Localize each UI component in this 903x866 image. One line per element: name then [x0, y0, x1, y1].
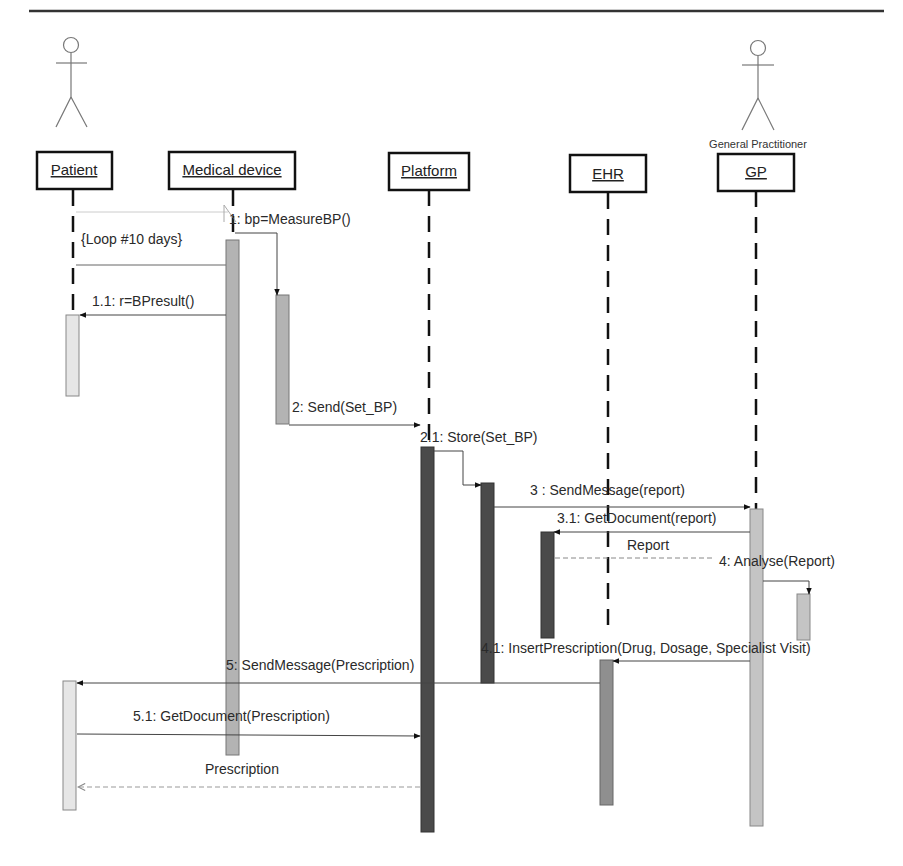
message-label-4: 4: Analyse(Report) — [719, 553, 835, 569]
activation-ehr-1 — [600, 660, 613, 805]
lifeline-label-platform: Platform — [401, 162, 457, 179]
lifeline-box-patient[interactable]: Patient — [37, 152, 112, 189]
patient-actor-icon — [56, 38, 87, 128]
gp-actor-caption: General Practitioner — [709, 138, 807, 150]
lifeline-box-medical-device[interactable]: Medical device — [169, 152, 295, 189]
activation-patient-2 — [63, 681, 76, 810]
activation-medical-device-1 — [226, 240, 239, 755]
lifeline-box-ehr[interactable]: EHR — [570, 155, 646, 192]
lifeline-label-gp: GP — [745, 163, 767, 180]
lifeline-label-medical-device: Medical device — [182, 161, 281, 178]
message-arrow-2-1 — [434, 451, 481, 485]
message-arrow-4 — [763, 581, 809, 594]
return-label-report: Report — [627, 537, 669, 553]
message-label-2-1: 2.1: Store(Set_BP) — [420, 429, 538, 445]
activation-gp-2 — [797, 594, 810, 640]
message-label-1: 1: bp=MeasureBP() — [229, 211, 351, 227]
message-label-5: 5: SendMessage(Prescription) — [226, 657, 414, 673]
message-label-3-1: 3.1: GetDocument(report) — [557, 510, 717, 526]
return-label-prescription: Prescription — [205, 761, 279, 777]
lifeline-label-ehr: EHR — [592, 165, 624, 182]
lifeline-box-gp[interactable]: GP — [718, 154, 794, 191]
activation-patient-1 — [66, 315, 79, 396]
activation-platform-3 — [541, 532, 554, 638]
message-arrow-5-1 — [77, 734, 420, 736]
gp-actor-icon — [742, 41, 774, 131]
message-label-4-1: 4.1: InsertPrescription(Drug, Dosage, Sp… — [481, 640, 811, 656]
message-label-3: 3 : SendMessage(report) — [530, 482, 685, 498]
lifeline-box-platform[interactable]: Platform — [389, 153, 469, 190]
loop-label: {Loop #10 days} — [81, 231, 183, 247]
message-arrow-1 — [235, 233, 277, 295]
message-label-1-1: 1.1: r=BPresult() — [92, 293, 194, 309]
message-label-2: 2: Send(Set_BP) — [292, 399, 397, 415]
activation-medical-device-2 — [276, 295, 289, 424]
lifeline-label-patient: Patient — [51, 161, 99, 178]
message-label-5-1: 5.1: GetDocument(Prescription) — [133, 708, 330, 724]
activation-platform-1 — [421, 447, 434, 832]
sequence-diagram: General Practitioner Patient Medical dev… — [0, 0, 903, 866]
